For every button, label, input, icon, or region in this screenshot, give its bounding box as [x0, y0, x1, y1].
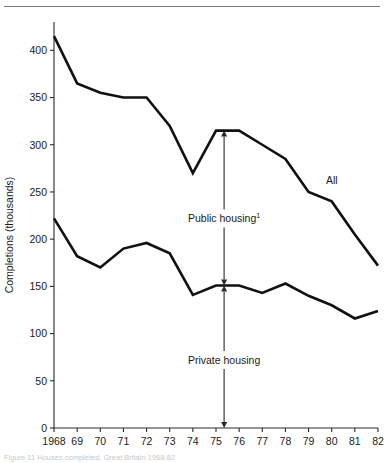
y-tick-label: 300 [29, 139, 47, 151]
annotation-label-private-housing: Private housing [188, 354, 261, 366]
x-tick-label: 69 [71, 435, 83, 447]
x-tick-label: 76 [233, 435, 245, 447]
x-tick-label: 71 [118, 435, 130, 447]
y-tick-label: 150 [29, 280, 47, 292]
y-tick-label: 50 [35, 375, 47, 387]
annotation-label-public-housing: Public housing1 [188, 212, 260, 224]
x-tick-label: 80 [326, 435, 338, 447]
series-line-all [54, 36, 378, 265]
x-tick-label: 73 [164, 435, 176, 447]
x-tick-label: 70 [94, 435, 106, 447]
y-tick-label: 200 [29, 233, 47, 245]
series-line-private-housing [54, 218, 378, 318]
figure-caption: Figure 11 Houses completed, Great Britai… [4, 453, 175, 462]
chart-figure: 0501001502002503003504001968697071727374… [0, 0, 384, 463]
annotation-superscript: 1 [256, 212, 260, 219]
x-tick-label: 74 [187, 435, 199, 447]
y-axis-title: Completions (thousands) [3, 177, 15, 294]
x-tick-label: 1968 [42, 435, 66, 447]
x-tick-label: 78 [280, 435, 292, 447]
series-label-all: All [326, 174, 338, 186]
figure-top-rule [4, 6, 380, 7]
y-tick-label: 250 [29, 186, 47, 198]
x-tick-label: 72 [141, 435, 153, 447]
x-tick-label: 77 [256, 435, 268, 447]
y-tick-label: 350 [29, 91, 47, 103]
line-chart: 0501001502002503003504001968697071727374… [0, 0, 384, 463]
x-tick-label: 82 [372, 435, 384, 447]
x-tick-label: 79 [303, 435, 315, 447]
y-tick-label: 400 [29, 44, 47, 56]
y-tick-label: 100 [29, 327, 47, 339]
x-tick-label: 75 [210, 435, 222, 447]
y-tick-label: 0 [41, 422, 47, 434]
x-tick-label: 81 [349, 435, 361, 447]
annotation-arrowhead-down [221, 422, 227, 428]
